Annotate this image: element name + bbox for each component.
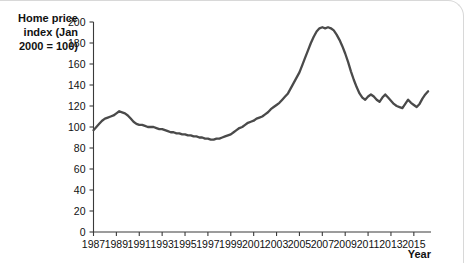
x-tick-label: 2005 <box>288 238 312 250</box>
x-tick-label: 2001 <box>242 238 266 250</box>
y-tick-label: 40 <box>74 184 86 196</box>
x-axis-title: Year <box>408 248 432 260</box>
x-tick-label: 1995 <box>173 238 197 250</box>
chart-svg: Home price index (Jan 2000 = 100) 020406… <box>0 0 464 263</box>
x-tick-label: 2003 <box>265 238 289 250</box>
y-tick-label: 100 <box>68 121 86 133</box>
y-tick-label: 120 <box>68 100 86 112</box>
y-tick-label: 20 <box>74 205 86 217</box>
home-price-index-chart: Home price index (Jan 2000 = 100) 020406… <box>0 0 464 263</box>
x-tick-label: 1993 <box>150 238 174 250</box>
x-tick-label: 2013 <box>379 238 403 250</box>
x-tick-label: 1987 <box>82 238 106 250</box>
x-tick-label: 2011 <box>357 238 380 250</box>
y-tick-label: 0 <box>80 226 86 238</box>
y-tick-label: 160 <box>68 58 86 70</box>
y-tick-label: 180 <box>68 37 86 49</box>
x-axis-ticks: 1987198919911993199519971999200120032005… <box>82 232 426 250</box>
x-tick-label: 1991 <box>128 238 152 250</box>
x-tick-label: 1997 <box>196 238 220 250</box>
x-tick-label: 1989 <box>105 238 129 250</box>
x-tick-label: 2007 <box>311 238 335 250</box>
x-tick-label: 2009 <box>334 238 358 250</box>
y-tick-label: 80 <box>74 142 86 154</box>
y-tick-label: 60 <box>74 163 86 175</box>
home-price-index-line <box>94 27 429 139</box>
y-tick-label: 200 <box>68 16 86 28</box>
y-tick-label: 140 <box>68 79 86 91</box>
x-tick-label: 1999 <box>219 238 243 250</box>
